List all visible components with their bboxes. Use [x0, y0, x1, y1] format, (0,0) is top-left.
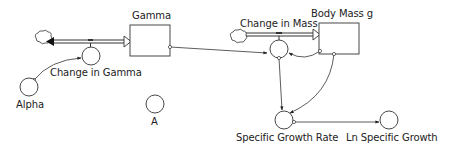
- label-a: A: [151, 116, 158, 127]
- cloud-icon-mass-source: [230, 29, 246, 43]
- converter-ln-specific-growth[interactable]: [380, 111, 398, 129]
- label-gamma: Gamma: [132, 10, 171, 21]
- flow-pipe-change-in-mass[interactable]: [246, 29, 320, 40]
- label-change-in-mass: Change in Mass: [240, 18, 318, 29]
- label-change-in-gamma: Change in Gamma: [50, 67, 142, 78]
- label-alpha: Alpha: [16, 99, 44, 110]
- label-ln-specific-growth: Ln Specific Growth: [346, 132, 438, 143]
- connector-body-mass-to-sgr: [290, 54, 334, 113]
- flow-valve-change-in-gamma[interactable]: [82, 47, 100, 65]
- converter-alpha[interactable]: [20, 78, 38, 96]
- flow-valve-change-in-mass[interactable]: [270, 40, 288, 58]
- label-specific-growth-rate: Specific Growth Rate: [236, 132, 338, 143]
- converter-a[interactable]: [146, 95, 164, 113]
- diagram-canvas: Gamma Change in Gamma Alpha A Change in …: [0, 0, 452, 151]
- connector-gamma-to-change-in-mass: [170, 47, 267, 53]
- connector-body-mass-to-change-in-mass: [289, 51, 320, 57]
- connector-change-in-mass-to-sgr: [279, 58, 282, 110]
- converter-specific-growth-rate[interactable]: [275, 111, 293, 129]
- stock-body-mass[interactable]: [319, 23, 359, 54]
- label-body-mass: Body Mass g: [311, 8, 373, 19]
- stock-gamma[interactable]: [130, 25, 170, 56]
